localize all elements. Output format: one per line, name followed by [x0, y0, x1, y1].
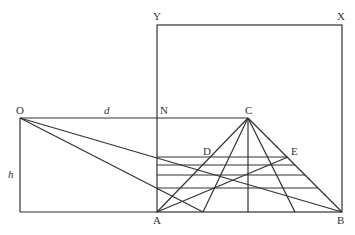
- label-y: Y: [153, 10, 161, 22]
- label-x: X: [337, 10, 345, 22]
- label-a: A: [153, 214, 161, 226]
- label-n: N: [160, 104, 168, 116]
- label-b: B: [337, 214, 344, 226]
- label-d: d: [104, 104, 110, 116]
- geometry-diagram: Y X O d N C D E h A B: [0, 0, 355, 235]
- label-d-point: D: [203, 145, 211, 157]
- label-h: h: [8, 168, 14, 180]
- label-c: C: [245, 104, 252, 116]
- label-o: O: [16, 104, 24, 116]
- label-e: E: [291, 145, 298, 157]
